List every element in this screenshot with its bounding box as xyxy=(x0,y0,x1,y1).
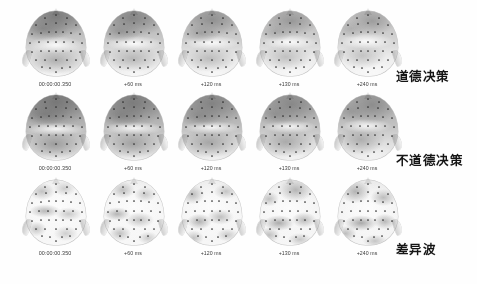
potential-field xyxy=(338,180,398,245)
scalp-head-outline xyxy=(24,10,88,80)
scalp-map xyxy=(26,95,86,160)
topomap-row-moral-decision: 00:00:00.350 xyxy=(0,8,477,92)
scalp-head-outline xyxy=(102,179,166,249)
scalp-head-outline xyxy=(180,10,244,80)
potential-field xyxy=(26,11,86,76)
potential-field xyxy=(182,11,242,76)
eeg-topomap-figure: 00:00:00.350 xyxy=(0,0,477,284)
scalp-head-outline xyxy=(258,179,322,249)
topomap-cell: +130 ms xyxy=(252,177,326,261)
time-label: +130 ms xyxy=(252,250,326,256)
potential-field xyxy=(260,180,320,245)
time-label: +130 ms xyxy=(252,165,326,171)
time-label: +120 ms xyxy=(174,250,248,256)
scalp-head-outline xyxy=(336,94,400,164)
topomap-cell: 00:00:00.350 xyxy=(18,92,92,176)
topomap-cell: +240 ms xyxy=(330,8,404,92)
row-label-immoral-decision: 不道德决策 xyxy=(396,150,463,169)
potential-field xyxy=(26,180,86,245)
topomap-cell: +60 ms xyxy=(96,92,170,176)
potential-field xyxy=(182,180,242,245)
scalp-head-outline xyxy=(336,179,400,249)
time-label: 00:00:00.350 xyxy=(18,165,92,171)
scalp-map xyxy=(338,11,398,76)
time-label: +240 ms xyxy=(330,165,404,171)
topomap-cell: +240 ms xyxy=(330,177,404,261)
scalp-map xyxy=(26,180,86,245)
potential-field xyxy=(104,95,164,160)
topomap-cell: +130 ms xyxy=(252,92,326,176)
scalp-map xyxy=(26,11,86,76)
time-label: 00:00:00.350 xyxy=(18,250,92,256)
time-label: 00:00:00.350 xyxy=(18,81,92,87)
topomap-row-immoral-decision: 00:00:00.350 xyxy=(0,92,477,176)
scalp-head-outline xyxy=(102,10,166,80)
topomap-cell: +120 ms xyxy=(174,8,248,92)
time-label: +240 ms xyxy=(330,250,404,256)
topomap-cell: +130 ms xyxy=(252,8,326,92)
scalp-map xyxy=(182,95,242,160)
topomap-cell: +60 ms xyxy=(96,177,170,261)
scalp-map xyxy=(338,95,398,160)
scalp-head-outline xyxy=(180,179,244,249)
scalp-head-outline xyxy=(24,94,88,164)
potential-field xyxy=(104,180,164,245)
potential-field xyxy=(260,95,320,160)
topomap-cell: +240 ms xyxy=(330,92,404,176)
potential-field xyxy=(260,11,320,76)
scalp-map xyxy=(104,11,164,76)
scalp-map xyxy=(104,180,164,245)
topomap-cell: 00:00:00.350 xyxy=(18,177,92,261)
scalp-map xyxy=(260,180,320,245)
scalp-map xyxy=(182,180,242,245)
scalp-head-outline xyxy=(258,10,322,80)
scalp-head-outline xyxy=(24,179,88,249)
potential-field xyxy=(182,95,242,160)
potential-field xyxy=(338,11,398,76)
potential-field xyxy=(338,95,398,160)
topomap-row-difference-wave: 00:00:00.350 xyxy=(0,177,477,261)
potential-field xyxy=(104,11,164,76)
time-label: +60 ms xyxy=(96,165,170,171)
time-label: +120 ms xyxy=(174,165,248,171)
time-label: +130 ms xyxy=(252,81,326,87)
topomap-cell: +60 ms xyxy=(96,8,170,92)
potential-field xyxy=(26,95,86,160)
scalp-map xyxy=(260,95,320,160)
time-label: +60 ms xyxy=(96,81,170,87)
time-label: +60 ms xyxy=(96,250,170,256)
row-label-difference-wave: 差异波 xyxy=(396,239,436,258)
time-label: +120 ms xyxy=(174,81,248,87)
scalp-map xyxy=(338,180,398,245)
scalp-head-outline xyxy=(102,94,166,164)
topomap-cell: +120 ms xyxy=(174,177,248,261)
scalp-head-outline xyxy=(336,10,400,80)
scalp-map xyxy=(260,11,320,76)
topomap-cell: +120 ms xyxy=(174,92,248,176)
row-label-moral-decision: 道德决策 xyxy=(396,66,450,85)
topomap-cell: 00:00:00.350 xyxy=(18,8,92,92)
scalp-map xyxy=(182,11,242,76)
scalp-map xyxy=(104,95,164,160)
scalp-head-outline xyxy=(180,94,244,164)
scalp-head-outline xyxy=(258,94,322,164)
time-label: +240 ms xyxy=(330,81,404,87)
